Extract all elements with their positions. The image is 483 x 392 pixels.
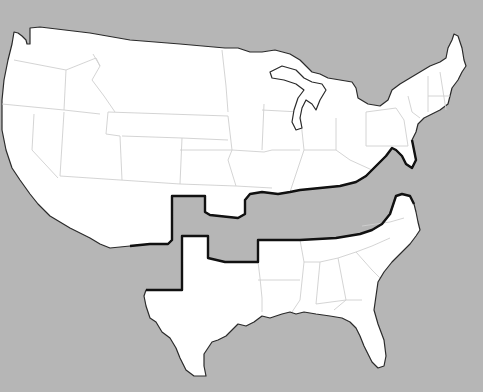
- south-region: [144, 194, 420, 376]
- south-landmass: [144, 194, 420, 376]
- us-split-map: [0, 0, 483, 392]
